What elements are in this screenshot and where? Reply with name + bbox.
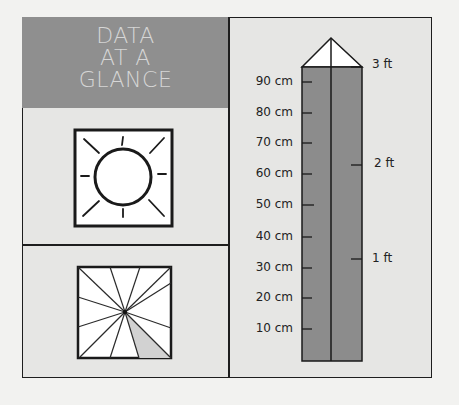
ft-label-2: 2 ft (374, 156, 394, 170)
cm-label-60: 60 cm (256, 166, 293, 180)
cm-label-70: 70 cm (256, 135, 293, 149)
cm-label-30: 30 cm (256, 260, 293, 274)
cm-label-90: 90 cm (256, 74, 293, 88)
ft-label-1: 1 ft (372, 251, 392, 265)
cm-label-80: 80 cm (256, 105, 293, 119)
cm-label-50: 50 cm (256, 197, 293, 211)
cm-label-20: 20 cm (256, 290, 293, 304)
ft-label-3: 3 ft (372, 57, 392, 71)
cm-label-40: 40 cm (256, 229, 293, 243)
cm-label-10: 10 cm (256, 321, 293, 335)
